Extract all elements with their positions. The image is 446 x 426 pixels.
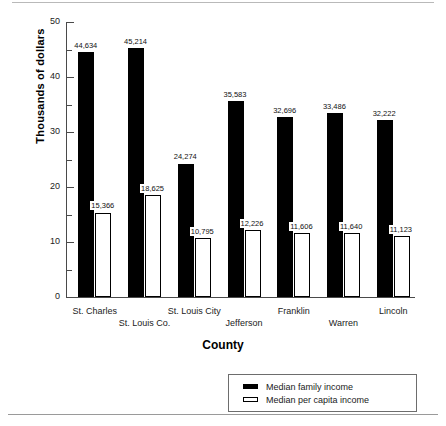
x-axis-label-st-louis-co: St. Louis Co. bbox=[119, 318, 171, 328]
bar-median-per-capita-income bbox=[294, 233, 310, 297]
bar-value-label-family: 35,583 bbox=[223, 90, 248, 99]
y-tick-label: 50 bbox=[34, 16, 60, 26]
x-axis-label-franklin: Franklin bbox=[278, 306, 310, 316]
bar-median-family-income bbox=[78, 52, 94, 297]
y-tick-label: 20 bbox=[34, 181, 60, 191]
bar-value-label-percap: 11,123 bbox=[389, 225, 413, 234]
legend-label-percap: Median per capita income bbox=[266, 395, 369, 405]
bar-median-per-capita-income bbox=[195, 238, 211, 297]
bar-median-per-capita-income bbox=[245, 230, 261, 297]
bar-value-label-percap: 11,606 bbox=[289, 222, 313, 231]
y-tick-label: 40 bbox=[34, 71, 60, 81]
bar-value-label-percap: 15,366 bbox=[90, 201, 115, 210]
x-axis-label-st-louis-city: St. Louis City bbox=[168, 306, 221, 316]
bar-value-label-family: 32,696 bbox=[272, 106, 297, 115]
legend-swatch-family-icon bbox=[243, 384, 258, 389]
x-axis-label-lincoln: Lincoln bbox=[379, 306, 408, 316]
chart-legend: Median family income Median per capita i… bbox=[228, 374, 417, 412]
legend-label-family: Median family income bbox=[266, 382, 353, 392]
x-axis-label-st-charles: St. Charles bbox=[73, 306, 118, 316]
bar-value-label-family: 33,486 bbox=[322, 102, 347, 111]
x-axis-title: County bbox=[0, 338, 446, 352]
bar-value-label-family: 24,274 bbox=[173, 152, 198, 161]
legend-item-family: Median family income bbox=[229, 380, 416, 393]
bar-median-per-capita-income bbox=[394, 236, 410, 297]
bar-median-family-income bbox=[377, 120, 393, 297]
y-tick-label: 10 bbox=[34, 236, 60, 246]
bottom-divider bbox=[8, 414, 438, 415]
plot-area: 44,63415,36645,21418,62524,27410,79535,5… bbox=[67, 22, 415, 297]
bar-median-family-income bbox=[128, 48, 144, 297]
x-axis-line bbox=[66, 297, 415, 298]
legend-swatch-percap-icon bbox=[243, 397, 258, 402]
bar-value-label-family: 44,634 bbox=[73, 41, 98, 50]
bar-value-label-family: 45,214 bbox=[123, 37, 148, 46]
bar-median-family-income bbox=[327, 113, 343, 297]
bar-value-label-percap: 12,226 bbox=[240, 219, 265, 228]
bar-median-family-income bbox=[277, 117, 293, 297]
bar-median-per-capita-income bbox=[344, 233, 360, 297]
bar-median-per-capita-income bbox=[145, 195, 161, 297]
y-axis-title: Thousands of dollars bbox=[34, 0, 46, 186]
legend-item-percap: Median per capita income bbox=[229, 393, 416, 406]
x-axis-label-jefferson: Jefferson bbox=[226, 318, 263, 328]
bar-median-per-capita-income bbox=[95, 213, 111, 298]
bar-median-family-income bbox=[228, 101, 244, 297]
x-axis-label-warren: Warren bbox=[329, 318, 358, 328]
y-tick-label: 0 bbox=[34, 291, 60, 301]
bar-value-label-percap: 11,640 bbox=[339, 222, 363, 231]
top-divider bbox=[12, 2, 434, 3]
y-tick-label: 30 bbox=[34, 126, 60, 136]
bar-value-label-percap: 18,625 bbox=[140, 184, 165, 193]
bar-value-label-percap: 10,795 bbox=[190, 227, 215, 236]
bar-value-label-family: 32,222 bbox=[372, 109, 397, 118]
